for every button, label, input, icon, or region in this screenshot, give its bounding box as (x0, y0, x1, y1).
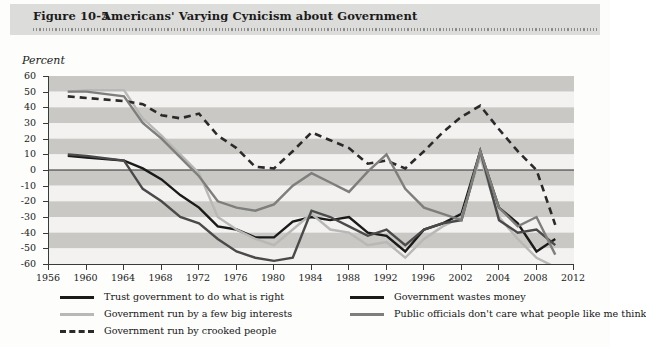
x-tick-mark (423, 265, 424, 270)
x-tick-label: 1984 (291, 272, 331, 283)
legend-label: Trust government to do what is right (104, 290, 284, 304)
x-tick-mark (161, 265, 162, 270)
y-tick-label: 60 (10, 70, 36, 81)
y-tick-label: -10 (10, 180, 36, 191)
grid-band (49, 107, 574, 123)
x-tick-label: 2004 (478, 272, 518, 283)
x-tick-mark (198, 265, 199, 270)
y-tick-label: -20 (10, 195, 36, 206)
x-tick-label: 1968 (141, 272, 181, 283)
x-tick-mark (498, 265, 499, 270)
x-tick-mark (573, 265, 574, 270)
legend-swatch-icon (60, 296, 94, 299)
chart-plot-area (48, 76, 574, 265)
page-title: Americans' Varying Cynicism about Govern… (102, 9, 417, 23)
x-tick-mark (536, 265, 537, 270)
legend-swatch-icon (350, 313, 384, 316)
legend-label: Government wastes money (394, 290, 526, 304)
y-tick-mark (43, 139, 48, 140)
x-tick-label: 1992 (366, 272, 406, 283)
y-tick-mark (43, 217, 48, 218)
x-tick-mark (348, 265, 349, 270)
y-tick-label: 40 (10, 101, 36, 112)
y-tick-label: 10 (10, 148, 36, 159)
grid-band (49, 233, 574, 249)
grid-band (49, 248, 574, 264)
y-tick-mark (43, 186, 48, 187)
x-tick-label: 1996 (403, 272, 443, 283)
x-tick-label: 2008 (516, 272, 556, 283)
x-tick-label: 2002 (441, 272, 481, 283)
y-tick-label: 30 (10, 117, 36, 128)
legend-label: Public officials don't care what people … (394, 307, 646, 321)
y-tick-label: -30 (10, 211, 36, 222)
chart-svg (49, 76, 574, 264)
x-tick-mark (311, 265, 312, 270)
x-tick-label: 1976 (216, 272, 256, 283)
y-tick-mark (43, 248, 48, 249)
legend-label: Government run by crooked people (104, 324, 276, 338)
figure-number: Figure 10-5 (33, 9, 109, 23)
figure-header: Figure 10-5 Americans' Varying Cynicism … (10, 4, 600, 35)
x-tick-label: 1964 (103, 272, 143, 283)
x-tick-mark (386, 265, 387, 270)
y-tick-label: -50 (10, 242, 36, 253)
grid-band (49, 139, 574, 155)
y-tick-mark (43, 123, 48, 124)
y-tick-label: 20 (10, 133, 36, 144)
x-tick-mark (273, 265, 274, 270)
x-tick-label: 2012 (553, 272, 593, 283)
x-tick-label: 1988 (328, 272, 368, 283)
x-tick-label: 1960 (66, 272, 106, 283)
x-tick-label: 1980 (253, 272, 293, 283)
grid-band (49, 123, 574, 139)
y-tick-label: -40 (10, 227, 36, 238)
grid-band (49, 217, 574, 233)
x-tick-mark (461, 265, 462, 270)
legend-swatch-icon (350, 296, 384, 299)
y-tick-mark (43, 107, 48, 108)
x-tick-mark (86, 265, 87, 270)
legend-swatch-icon (60, 313, 94, 316)
grid-band (49, 76, 574, 92)
y-tick-mark (43, 170, 48, 171)
y-tick-label: 50 (10, 86, 36, 97)
y-tick-mark (43, 76, 48, 77)
y-tick-mark (43, 201, 48, 202)
chart-legend: Trust government to do what is rightGove… (60, 290, 600, 342)
y-tick-mark (43, 233, 48, 234)
legend-swatch-icon (60, 330, 94, 333)
x-tick-label: 1972 (178, 272, 218, 283)
y-tick-label: -60 (10, 258, 36, 269)
x-tick-label: 1956 (28, 272, 68, 283)
y-axis-label: Percent (22, 54, 65, 67)
x-tick-mark (123, 265, 124, 270)
y-tick-mark (43, 154, 48, 155)
y-tick-mark (43, 92, 48, 93)
y-tick-label: 0 (10, 164, 36, 175)
x-tick-mark (236, 265, 237, 270)
dotted-divider (33, 28, 598, 31)
x-tick-mark (48, 265, 49, 270)
legend-label: Government run by a few big interests (104, 307, 292, 321)
